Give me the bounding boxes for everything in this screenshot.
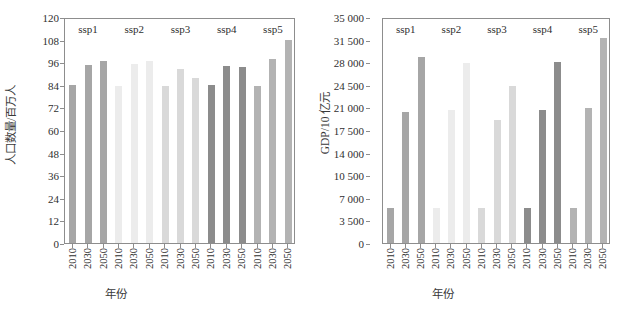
x-tick-label: 2050 <box>143 248 154 269</box>
bar <box>418 57 425 243</box>
y-axis-tickmarks-gdp <box>366 0 371 226</box>
bar <box>554 62 561 243</box>
x-tick-label: 2030 <box>582 248 593 269</box>
group-label-ssp3: ssp3 <box>487 23 507 35</box>
y-tick-mark <box>366 221 370 222</box>
y-tick-mark <box>60 244 64 245</box>
x-tick-label: 2030 <box>491 248 502 269</box>
bar <box>69 85 76 243</box>
y-tick-label: 21 000 <box>334 102 364 114</box>
x-tick-label: 2050 <box>551 248 562 269</box>
y-tick-mark <box>366 244 370 245</box>
x-tick-label: 2050 <box>236 248 247 269</box>
bar <box>162 86 169 243</box>
y-tick-label: 24 <box>48 193 59 205</box>
group-label-ssp2: ssp2 <box>125 23 145 35</box>
bar <box>524 208 531 243</box>
x-tick-label: 2050 <box>97 248 108 269</box>
bar <box>254 86 261 243</box>
x-tick-label: 2010 <box>112 248 123 269</box>
x-tick-label: 2030 <box>266 248 277 269</box>
x-tick-label: 2050 <box>460 248 471 269</box>
x-tick-label: 2010 <box>521 248 532 269</box>
y-tick-label: 0 <box>359 238 365 250</box>
x-tick-label: 2050 <box>415 248 426 269</box>
x-tick-label: 2030 <box>399 248 410 269</box>
bar <box>285 40 292 243</box>
y-tick-label: 84 <box>48 80 59 92</box>
y-tick-mark <box>366 63 370 64</box>
y-tick-label: 36 <box>48 170 59 182</box>
y-axis-ticklabels-gdp: 03 5007 00010 50014 00017 50021 00024 50… <box>310 0 364 226</box>
y-tick-mark <box>366 199 370 200</box>
y-tick-mark <box>366 154 370 155</box>
y-tick-mark <box>366 108 370 109</box>
group-label-ssp4: ssp4 <box>217 23 237 35</box>
y-tick-label: 48 <box>48 148 59 160</box>
bar-series-population <box>65 19 294 243</box>
y-tick-label: 31 500 <box>334 35 364 47</box>
x-axis-title-population: 年份 <box>0 285 272 301</box>
bar <box>146 61 153 243</box>
bar <box>239 67 246 243</box>
x-tick-label: 2010 <box>66 248 77 269</box>
y-tick-label: 14 000 <box>334 148 364 160</box>
x-tick-label: 2010 <box>251 248 262 269</box>
bar <box>223 66 230 243</box>
bar <box>402 112 409 243</box>
x-tick-label: 2050 <box>189 248 200 269</box>
y-tick-label: 96 <box>48 57 59 69</box>
bar <box>208 85 215 243</box>
x-tick-label: 2030 <box>128 248 139 269</box>
group-label-ssp1: ssp1 <box>78 23 98 35</box>
x-tick-label: 2050 <box>506 248 517 269</box>
y-tick-label: 60 <box>48 125 59 137</box>
bar-series-gdp <box>383 19 609 243</box>
x-tick-label: 2030 <box>536 248 547 269</box>
group-label-ssp5: ssp5 <box>263 23 283 35</box>
plot-area-population: ssp1ssp2ssp3ssp4ssp5 <box>64 18 295 244</box>
y-tick-label: 0 <box>54 238 60 250</box>
x-tick-label: 2010 <box>384 248 395 269</box>
y-tick-label: 10 500 <box>334 170 364 182</box>
y-tick-label: 12 <box>48 215 59 227</box>
x-tick-label: 2050 <box>282 248 293 269</box>
bar <box>433 208 440 243</box>
y-tick-label: 72 <box>48 102 59 114</box>
bar <box>131 64 138 243</box>
group-label-ssp5: ssp5 <box>578 23 598 35</box>
bar <box>269 59 276 243</box>
bar <box>570 208 577 243</box>
group-label-ssp2: ssp2 <box>442 23 462 35</box>
x-tick-label: 2030 <box>174 248 185 269</box>
bar <box>100 61 107 243</box>
bar <box>585 108 592 243</box>
bar <box>539 110 546 243</box>
y-tick-mark <box>366 18 370 19</box>
bar <box>463 63 470 243</box>
x-tick-label: 2010 <box>205 248 216 269</box>
y-tick-mark <box>366 131 370 132</box>
x-tick-label: 2030 <box>445 248 456 269</box>
y-tick-mark <box>366 176 370 177</box>
x-tick-label: 2010 <box>567 248 578 269</box>
bar <box>509 86 516 243</box>
bar <box>494 120 501 243</box>
x-tick-label: 2010 <box>430 248 441 269</box>
y-tick-label: 3 500 <box>339 215 364 227</box>
y-tick-label: 108 <box>43 35 60 47</box>
y-tick-label: 17 500 <box>334 125 364 137</box>
figure-container: 人口数量/百万人 01224364860728496108120 ssp1ssp… <box>0 0 625 310</box>
bar <box>448 110 455 243</box>
group-label-ssp3: ssp3 <box>171 23 191 35</box>
bar <box>192 78 199 243</box>
y-tick-mark <box>366 41 370 42</box>
x-tick-label: 2010 <box>475 248 486 269</box>
y-tick-label: 7 000 <box>339 193 364 205</box>
bar <box>177 69 184 243</box>
bar <box>600 38 607 243</box>
plot-area-gdp: ssp1ssp2ssp3ssp4ssp5 <box>382 18 610 244</box>
y-axis-ticklabels-population: 01224364860728496108120 <box>14 0 59 226</box>
group-label-ssp4: ssp4 <box>533 23 553 35</box>
group-label-ssp1: ssp1 <box>396 23 416 35</box>
